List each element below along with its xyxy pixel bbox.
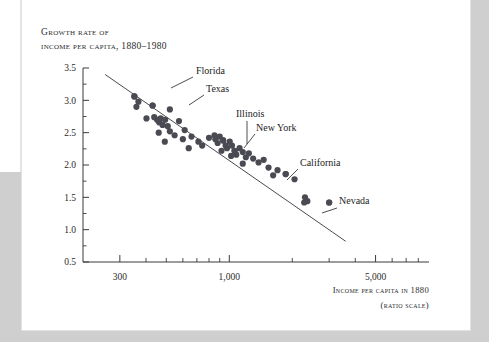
- chart-title-line1: Growth rate of: [41, 27, 109, 37]
- data-point: [188, 133, 194, 139]
- x-tick-label: 1,000: [219, 272, 241, 282]
- data-point: [206, 135, 212, 141]
- data-point: [215, 140, 221, 146]
- data-point: [246, 150, 252, 156]
- data-point: [301, 199, 307, 205]
- data-point: [291, 176, 297, 182]
- y-tick-label: 1.5: [64, 193, 76, 203]
- annotation-leader: [171, 77, 193, 88]
- annotated-data-point: [283, 171, 289, 177]
- chart-title: Growth rate of income per capita, 1880–1…: [41, 27, 167, 51]
- data-point: [261, 157, 267, 163]
- x-tick-label: 5,000: [365, 272, 387, 282]
- annotated-data-point: [231, 148, 237, 154]
- data-point: [186, 145, 192, 151]
- data-point: [240, 161, 246, 167]
- figure-container: Growth rate of income per capita, 1880–1…: [0, 0, 489, 342]
- data-point: [167, 106, 173, 112]
- y-tick-label: 1.0: [64, 225, 76, 235]
- data-point: [143, 115, 149, 121]
- annotation-label: California: [300, 157, 341, 168]
- annotated-data-point: [149, 102, 155, 108]
- chart-title-line2: income per capita, 1880–1980: [41, 41, 167, 51]
- data-points: [131, 93, 332, 205]
- data-point: [133, 104, 139, 110]
- annotated-data-point: [131, 93, 137, 99]
- annotation-leader: [322, 208, 337, 213]
- data-point: [199, 143, 205, 149]
- screenshot-root: Growth rate of income per capita, 1880–1…: [0, 0, 489, 342]
- annotated-data-point: [220, 137, 226, 143]
- x-axis-label-line1: Income per capita in 1880: [333, 285, 429, 295]
- data-point: [156, 130, 162, 136]
- annotation-leader: [189, 95, 204, 105]
- annotation-leader: [244, 134, 255, 148]
- y-tick-label: 2.5: [64, 128, 76, 138]
- data-point: [228, 153, 234, 159]
- y-tick-label: 0.5: [64, 257, 76, 267]
- annotation-label: Nevada: [339, 195, 370, 206]
- x-tick-labels: 3001,0005,000: [113, 272, 387, 282]
- data-point: [180, 136, 186, 142]
- annotation-label: Illinois: [236, 108, 264, 119]
- data-point: [274, 167, 280, 173]
- annotation-label: New York: [256, 122, 297, 133]
- y-tick-labels: 0.51.01.52.02.53.03.5: [64, 63, 76, 267]
- x-tick-label: 300: [113, 272, 128, 282]
- y-tick-label: 3.0: [64, 96, 76, 106]
- y-tick-label: 2.0: [64, 160, 76, 170]
- x-axis-label-line2: (ratio scale): [381, 300, 429, 310]
- data-point: [176, 118, 182, 124]
- data-point: [172, 132, 178, 138]
- annotation-label: Texas: [206, 83, 229, 94]
- x-axis-caption: Income per capita in 1880 (ratio scale): [333, 285, 429, 310]
- point-annotations: FloridaTexasIllinoisNew YorkCaliforniaNe…: [131, 65, 370, 213]
- data-point: [167, 128, 173, 134]
- data-point: [162, 139, 168, 145]
- data-point: [265, 164, 271, 170]
- data-point: [162, 117, 168, 123]
- annotation-label: Florida: [196, 65, 225, 76]
- data-point: [218, 148, 224, 154]
- data-point: [240, 149, 246, 155]
- data-point: [250, 155, 256, 161]
- annotated-data-point: [326, 199, 332, 205]
- data-point: [270, 172, 276, 178]
- data-point: [182, 127, 188, 133]
- y-tick-label: 3.5: [64, 63, 76, 73]
- scatter-chart: Growth rate of income per capita, 1880–1…: [0, 0, 489, 342]
